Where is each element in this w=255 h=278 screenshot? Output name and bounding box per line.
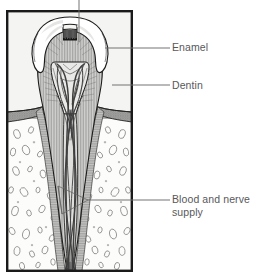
label-blood-line-1: Blood and nerve bbox=[172, 193, 250, 205]
figure-page: Enamel Dentin Blood and nervesupply bbox=[0, 0, 255, 278]
tooth-diagram bbox=[0, 0, 255, 278]
label-dentin: Dentin bbox=[172, 79, 203, 92]
label-enamel: Enamel bbox=[172, 41, 208, 54]
label-blood-line-2: supply bbox=[172, 206, 203, 218]
label-blood-and-nerve-supply: Blood and nervesupply bbox=[172, 193, 250, 218]
occlusal-fissure bbox=[63, 30, 77, 40]
